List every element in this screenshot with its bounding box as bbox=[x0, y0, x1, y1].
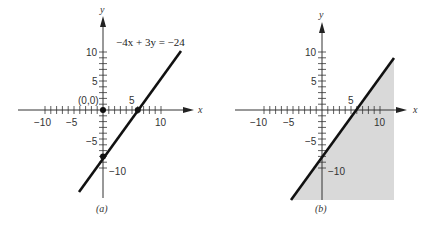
x-tick-label: 10 bbox=[155, 117, 167, 128]
y-tick-label: 5 bbox=[311, 76, 317, 87]
x-tick-label: −5 bbox=[283, 117, 295, 128]
x-arrow-icon bbox=[396, 107, 407, 113]
x-tick-label: −5 bbox=[66, 117, 78, 128]
y-axis-label: y bbox=[318, 9, 324, 20]
y-tick-label: −5 bbox=[86, 136, 98, 147]
x-tick-label: −10 bbox=[250, 117, 267, 128]
panel-b: x y bbox=[235, 9, 418, 215]
x-tick-label: −10 bbox=[34, 117, 51, 128]
x-axis-label: x bbox=[197, 104, 203, 115]
x-tick-label: 5 bbox=[348, 95, 354, 106]
y-axis-label: y bbox=[99, 4, 105, 15]
y-tick-label: −10 bbox=[328, 166, 345, 177]
figure: x y bbox=[0, 0, 430, 226]
y-arrow-icon bbox=[319, 22, 325, 33]
panel-a: x y bbox=[18, 4, 203, 215]
caption-b: (b) bbox=[315, 203, 327, 215]
caption-a: (a) bbox=[96, 203, 108, 215]
x-tick-label: 5 bbox=[129, 95, 135, 106]
y-tick-label: −5 bbox=[305, 136, 317, 147]
y-intercept-point bbox=[100, 153, 106, 159]
y-tick-label: 5 bbox=[92, 76, 98, 87]
y-tick-label: 10 bbox=[305, 47, 317, 58]
x-tick-label: 10 bbox=[374, 117, 386, 128]
y-tick-label: 10 bbox=[86, 47, 98, 58]
equation-label: −4x + 3y = −24 bbox=[116, 36, 185, 48]
origin-point bbox=[100, 107, 106, 113]
x-intercept-point bbox=[135, 107, 141, 113]
x-arrow-icon bbox=[183, 107, 194, 113]
y-tick-label: −10 bbox=[109, 166, 126, 177]
origin-label: (0,0) bbox=[78, 95, 99, 106]
y-arrow-icon bbox=[100, 16, 106, 27]
x-axis-label: x bbox=[412, 104, 418, 115]
